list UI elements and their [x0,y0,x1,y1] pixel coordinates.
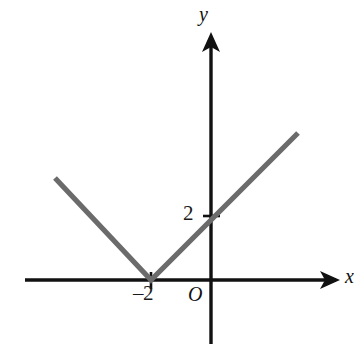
coordinate-plane-svg [0,0,362,344]
x-axis-label: x [345,266,354,286]
y-tick-label-two: 2 [183,203,194,224]
x-tick-label-neg2: –2 [133,283,153,304]
abs-value-curve [55,133,298,280]
y-axis-label: y [199,4,208,24]
origin-label: O [188,284,202,304]
graph-figure: y x O –2 2 [0,0,362,344]
